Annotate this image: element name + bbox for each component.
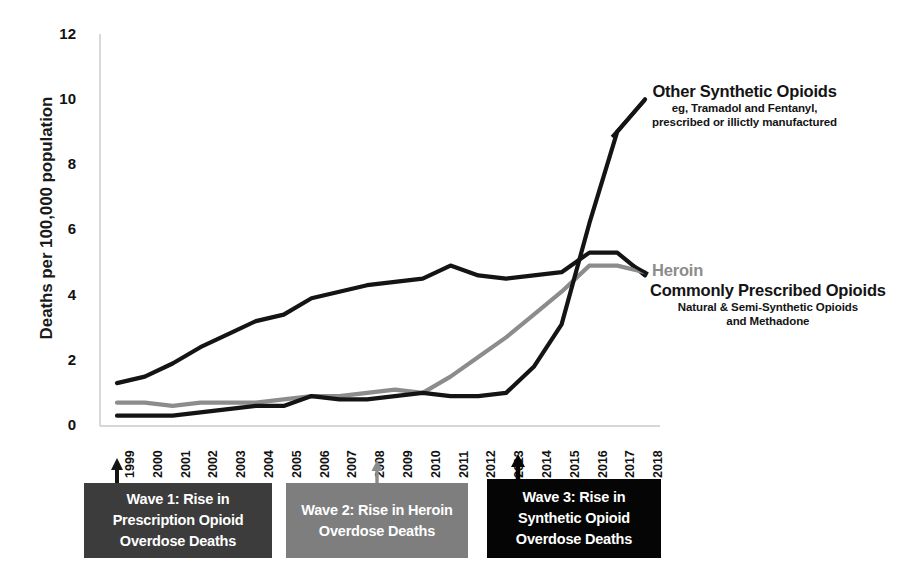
opioid-overdose-chart: Deaths per 100,000 population 12 10 8 6 …: [0, 0, 906, 585]
leader-line-synthetic: [612, 100, 645, 137]
wave-3-line-2: Synthetic Opioid: [491, 508, 657, 529]
annotation-synthetic-sub1: eg, Tramadol and Fentanyl,: [652, 101, 837, 115]
wave-arrow-1999: [111, 458, 123, 483]
annotation-synthetic-title: Other Synthetic Opioids: [652, 82, 837, 101]
wave-3-line-1: Wave 3: Rise in: [491, 487, 657, 508]
series-line-heroin: [117, 266, 645, 406]
wave-2-line-2: Overdose Deaths: [290, 521, 464, 542]
wave-3-callout: Wave 3: Rise in Synthetic Opioid Overdos…: [487, 479, 661, 558]
wave-3-line-3: Overdose Deaths: [491, 529, 657, 550]
annotation-heroin: Heroin: [652, 261, 703, 280]
annotation-other-synthetic-opioids: Other Synthetic Opioids eg, Tramadol and…: [652, 82, 837, 129]
annotation-prescribed-sub2: and Methadone: [650, 314, 886, 328]
annotation-heroin-title: Heroin: [652, 261, 703, 280]
wave-2-line-1: Wave 2: Rise in Heroin: [290, 500, 464, 521]
wave-1-line-2: Prescription Opioid: [88, 510, 268, 531]
annotation-synthetic-sub2: prescribed or illictly manufactured: [652, 115, 837, 129]
wave-1-line-1: Wave 1: Rise in: [88, 489, 268, 510]
wave-arrow-2010: [372, 460, 383, 483]
annotation-prescribed-title: Commonly Prescribed Opioids: [650, 281, 886, 300]
annotation-commonly-prescribed-opioids: Commonly Prescribed Opioids Natural & Se…: [650, 281, 886, 328]
series-layer: [117, 99, 645, 415]
series-line-commonly-prescribed-opioids: [117, 253, 645, 384]
wave-1-callout: Wave 1: Rise in Prescription Opioid Over…: [84, 483, 272, 558]
annotation-prescribed-sub1: Natural & Semi-Synthetic Opioids: [650, 300, 886, 314]
wave-1-line-3: Overdose Deaths: [88, 531, 268, 552]
wave-2-callout: Wave 2: Rise in Heroin Overdose Deaths: [286, 483, 468, 558]
series-line-other-synthetic-opioids: [117, 99, 645, 415]
wave-arrow-2013: [511, 454, 525, 480]
